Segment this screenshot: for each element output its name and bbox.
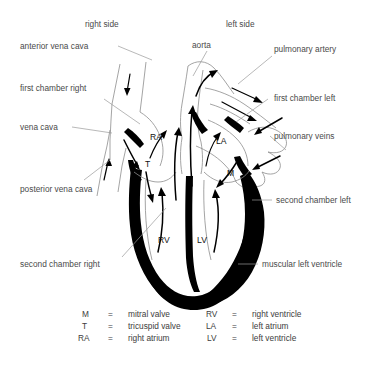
legend-abbr-ra: RA [78, 333, 90, 343]
legend-abbr-rv: RV [206, 309, 218, 319]
leader-first-chamber-right [104, 99, 140, 124]
legend-abbr-t: T [82, 321, 87, 331]
label-second-chamber-left: second chamber left [276, 195, 351, 205]
label-m: M [227, 168, 234, 178]
label-anterior-vena-cava: anterior vena cava [20, 41, 89, 51]
legend-eq-m: = [108, 309, 113, 319]
legend-eq-rv: = [232, 309, 237, 319]
legend-eq-t: = [108, 321, 113, 331]
legend-abbr-m: M [82, 309, 89, 319]
leader-anterior-vena-cava [118, 46, 152, 60]
label-pulmonary-artery: pulmonary artery [274, 44, 337, 54]
legend-eq-lv: = [232, 333, 237, 343]
legend-term-ra: right atrium [128, 333, 170, 343]
leader-pulmonary-artery [238, 56, 272, 84]
legend-term-rv: right ventricle [252, 309, 302, 319]
label-aorta: aorta [192, 40, 211, 50]
legend-term-lv: left ventricle [252, 333, 297, 343]
top-callout-labels: aorta [192, 40, 211, 50]
leader-aorta [193, 51, 207, 76]
left-callout-labels: anterior vena cava first chamber right v… [20, 41, 100, 269]
legend-term-m: mitral valve [128, 309, 170, 319]
label-t: T [145, 159, 151, 169]
legend-abbr-la: LA [206, 321, 217, 331]
label-second-chamber-right: second chamber right [20, 259, 100, 269]
label-lv: LV [197, 235, 207, 245]
side-headings: right side left side [85, 19, 255, 29]
legend-term-t: tricuspid valve [128, 321, 181, 331]
label-ra: RA [150, 132, 162, 142]
leader-vena-cava [72, 127, 112, 133]
label-first-chamber-right: first chamber right [20, 83, 87, 93]
label-vena-cava: vena cava [20, 122, 58, 132]
side-label-left: left side [226, 19, 255, 29]
legend-eq-la: = [232, 321, 237, 331]
legend-abbr-lv: LV [207, 333, 217, 343]
label-muscular-left-ventricle: muscular left ventricle [262, 259, 343, 269]
label-posterior-vena-cava: posterior vena cava [20, 184, 93, 194]
label-first-chamber-left: first chamber left [274, 93, 336, 103]
heart-diagram-page: right side left side anterior vena cava … [0, 0, 365, 366]
label-pulmonary-veins: pulmonary veins [274, 131, 334, 141]
label-rv: RV [158, 235, 170, 245]
side-label-right: right side [85, 19, 119, 29]
legend-eq-ra: = [108, 333, 113, 343]
legend-term-la: left atrium [252, 321, 289, 331]
legend: M = mitral valve T = tricuspid valve RA … [78, 309, 302, 343]
label-la: LA [216, 136, 227, 146]
heart-diagram-svg: right side left side anterior vena cava … [0, 0, 365, 366]
